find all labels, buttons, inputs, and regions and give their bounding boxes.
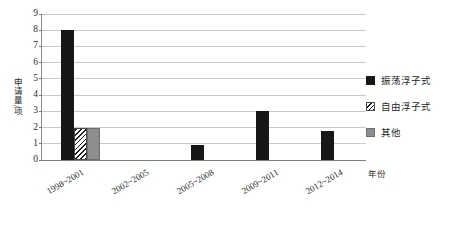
y-axis-tick-mark: [39, 160, 42, 161]
y-axis-tick-mark: [39, 46, 42, 47]
x-axis-tick-label: 1998~2001: [46, 168, 86, 196]
y-axis-tick-label: 5: [24, 74, 38, 84]
x-axis-tick-label: 2009~2011: [240, 168, 280, 196]
bar: [74, 128, 87, 160]
y-axis-tick-label: 9: [24, 9, 38, 19]
x-axis-title: 年份: [368, 170, 386, 179]
gridline: [42, 78, 366, 79]
bar: [61, 30, 74, 160]
gridline: [42, 111, 366, 112]
y-axis-tick-label: 1: [24, 139, 38, 149]
gridline: [42, 62, 366, 63]
legend-swatch-icon: [366, 76, 375, 85]
gridline: [42, 30, 366, 31]
y-axis-tick-mark: [39, 127, 42, 128]
y-axis-tick-mark: [39, 30, 42, 31]
y-axis-tick-label: 6: [24, 58, 38, 68]
y-axis-tick-mark: [39, 62, 42, 63]
bar: [191, 145, 204, 160]
bar: [321, 131, 334, 160]
x-axis-tick-label: 2005~2008: [175, 168, 215, 196]
y-axis-tick-mark: [39, 111, 42, 112]
x-axis-tick-label: 2002~2005: [111, 168, 151, 196]
y-axis-tick-label: 8: [24, 25, 38, 35]
y-axis-tick-label: 2: [24, 123, 38, 133]
gridline: [42, 14, 366, 15]
chart-legend: 振荡浮子式自由浮子式其他: [366, 74, 460, 152]
legend-label: 自由浮子式: [381, 102, 431, 112]
y-axis-tick-label: 4: [24, 90, 38, 100]
y-axis-tick-label: 3: [24, 107, 38, 117]
bar: [87, 128, 100, 160]
y-axis-tick-mark: [39, 78, 42, 79]
gridline: [42, 95, 366, 96]
legend-swatch-icon: [366, 128, 375, 137]
legend-label: 其他: [381, 128, 401, 138]
y-axis-tick-mark: [39, 143, 42, 144]
y-axis-tick-label: 0: [24, 155, 38, 165]
y-axis-tick-mark: [39, 95, 42, 96]
y-axis-tick-labels: 0123456789: [24, 14, 38, 160]
legend-item: 其他: [366, 126, 460, 139]
legend-item: 自由浮子式: [366, 100, 460, 113]
legend-item: 振荡浮子式: [366, 74, 460, 87]
y-axis-title: 申请量/项: [8, 78, 22, 116]
bar-chart-figure: 申请量/项 0123456789 1998~20012002~20052005~…: [0, 0, 462, 239]
x-axis-tick-label: 2012~2014: [305, 168, 345, 196]
legend-swatch-icon: [366, 102, 375, 111]
y-axis-tick-mark: [39, 14, 42, 15]
plot-area: [41, 14, 365, 160]
bar: [256, 111, 269, 160]
legend-label: 振荡浮子式: [381, 76, 431, 86]
gridline: [42, 46, 366, 47]
y-axis-tick-label: 7: [24, 42, 38, 52]
